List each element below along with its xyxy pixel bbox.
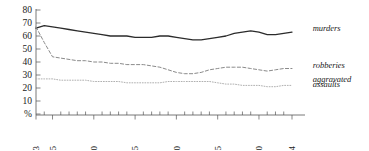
y-tick-label: 80 xyxy=(23,5,33,15)
robberies-label: robberies xyxy=(313,60,346,70)
x-tick-label: 2004 xyxy=(287,146,297,151)
x-tick-label: 2000 xyxy=(254,146,264,151)
aggravated-assaults-label-line2: assaults xyxy=(313,79,341,89)
series-line-robberies xyxy=(36,27,292,74)
x-tick-label: 1985 xyxy=(130,146,140,151)
series-line-murders xyxy=(36,26,292,40)
y-tick-label: 20 xyxy=(23,83,33,93)
y-axis-tick-labels: 8070605040302010% xyxy=(23,5,33,119)
chart-canvas: 8070605040302010% 1973197519801985199019… xyxy=(0,0,369,150)
series-label-group: murdersrobberiesaggravatedassaults xyxy=(313,23,352,89)
y-tick-label: 10 xyxy=(23,96,33,106)
murders-label: murders xyxy=(313,23,342,33)
data-series-group xyxy=(36,26,292,87)
x-tick-label: 1973 xyxy=(31,146,41,151)
y-tick-label: 70 xyxy=(23,18,33,28)
y-tick-label: 30 xyxy=(23,70,33,80)
x-axis-tick-labels: 19731975198019851990199520002004 xyxy=(31,146,297,151)
y-tick-label: % xyxy=(24,109,32,119)
line-chart: 8070605040302010% 1973197519801985199019… xyxy=(0,0,369,150)
y-axis-tick-marks xyxy=(36,10,41,114)
y-tick-label: 50 xyxy=(23,44,33,54)
x-tick-label: 1975 xyxy=(48,146,58,151)
x-tick-label: 1990 xyxy=(172,146,182,151)
y-tick-label: 40 xyxy=(23,57,33,67)
y-tick-label: 60 xyxy=(23,31,33,41)
x-tick-label: 1995 xyxy=(213,146,223,151)
x-axis-tick-marks xyxy=(36,112,292,120)
series-line-aggravated-assaults xyxy=(36,79,292,87)
x-tick-label: 1980 xyxy=(89,146,99,151)
